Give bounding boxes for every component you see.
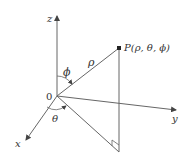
projection-segment (57, 96, 119, 152)
rho-label: ρ (87, 56, 95, 69)
x-axis-label: x (15, 138, 21, 149)
right-angle-mark (112, 140, 119, 146)
point-label: P(ρ, θ, ϕ) (123, 42, 170, 53)
origin-label: 0 (46, 91, 52, 102)
spherical-coordinates-diagram: z x y 0 ρ ϕ θ P(ρ, θ, ϕ) (0, 0, 188, 163)
y-axis-label: y (171, 113, 178, 124)
z-axis-label: z (46, 13, 53, 24)
y-axis (57, 96, 176, 110)
phi-label: ϕ (63, 66, 71, 79)
theta-label: θ (52, 113, 58, 124)
point-p (117, 46, 121, 50)
